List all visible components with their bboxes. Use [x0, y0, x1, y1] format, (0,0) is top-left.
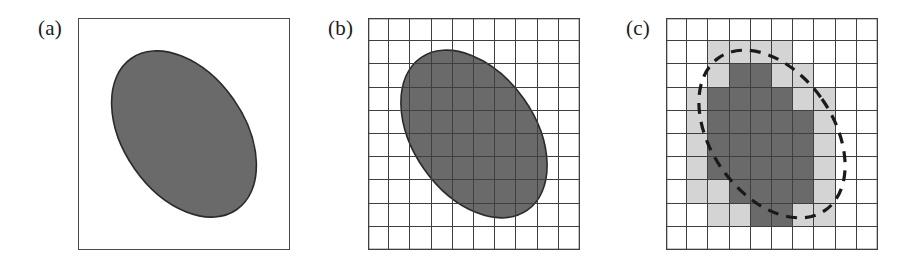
panel-c-dashed-outline-layer — [666, 18, 878, 250]
panel-b-label: (b) — [328, 16, 353, 41]
panel-b-outer-frame — [368, 18, 580, 250]
panel-c: (c) — [614, 0, 924, 268]
panel-b-plot-area — [368, 18, 580, 250]
panel-a-shape-layer — [79, 19, 289, 249]
panel-a-label: (a) — [38, 16, 62, 41]
panel-c-label: (c) — [626, 16, 650, 41]
panel-c-plot-area — [666, 18, 878, 250]
dashed-ellipse-outline — [669, 23, 876, 245]
figure-discretization: (a) (b) (c) — [0, 0, 924, 268]
ellipse-shape — [82, 24, 287, 244]
panel-b: (b) — [310, 0, 614, 268]
panel-a-plot-area — [78, 18, 290, 250]
panel-a: (a) — [0, 0, 310, 268]
